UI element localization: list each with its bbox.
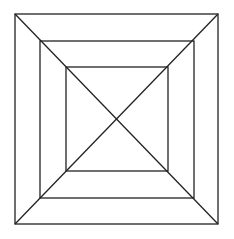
nested-squares-diagram [0, 0, 234, 239]
